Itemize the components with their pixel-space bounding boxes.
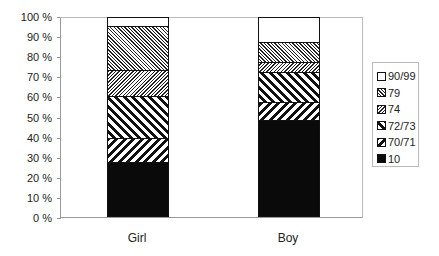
y-tick-label: 40 % — [0, 132, 52, 144]
y-tick-label: 30 % — [0, 152, 52, 164]
bar-segment-72-73 — [258, 73, 320, 103]
y-tick-label: 60 % — [0, 91, 52, 103]
y-tick-label: 70 % — [0, 71, 52, 83]
legend-swatch-icon — [377, 72, 386, 81]
bar-segment-74 — [258, 63, 320, 73]
legend-item: 79 — [377, 85, 418, 102]
x-tick-label: Boy — [257, 231, 319, 245]
legend-swatch-icon — [377, 88, 386, 97]
y-tick-label: 0 % — [0, 212, 52, 224]
legend-label: 72/73 — [388, 120, 416, 132]
bar-segment-10 — [258, 121, 320, 217]
y-tick-label: 100 % — [0, 11, 52, 23]
legend: 90/99797472/7370/7110 — [372, 62, 419, 167]
legend-item: 70/71 — [377, 134, 418, 151]
legend-item: 74 — [377, 101, 418, 118]
legend-swatch-icon — [377, 105, 386, 114]
y-tick-label: 90 % — [0, 31, 52, 43]
bar-girl — [107, 17, 169, 217]
bar-segment-90-99 — [107, 17, 169, 27]
y-tick-label: 20 % — [0, 172, 52, 184]
legend-swatch-icon — [377, 138, 386, 147]
bar-boy — [258, 17, 320, 217]
x-tick-label: Girl — [106, 231, 168, 245]
legend-swatch-icon — [377, 121, 386, 130]
legend-swatch-icon — [377, 154, 386, 163]
legend-label: 74 — [388, 103, 400, 115]
y-tick-label: 10 % — [0, 192, 52, 204]
bar-segment-10 — [107, 163, 169, 217]
bar-segment-70-71 — [258, 103, 320, 121]
y-tick-mark — [57, 218, 61, 219]
legend-item: 72/73 — [377, 118, 418, 135]
legend-label: 90/99 — [388, 70, 416, 82]
y-tick-label: 50 % — [0, 112, 52, 124]
y-tick-label: 80 % — [0, 51, 52, 63]
bar-segment-90-99 — [258, 17, 320, 43]
legend-label: 79 — [388, 87, 400, 99]
bar-segment-79 — [258, 43, 320, 63]
bar-segment-74 — [107, 71, 169, 97]
legend-item: 10 — [377, 151, 418, 168]
bar-segment-79 — [107, 27, 169, 71]
plot-area — [60, 17, 363, 218]
bar-segment-72-73 — [107, 97, 169, 139]
legend-label: 10 — [388, 153, 400, 165]
bar-segment-70-71 — [107, 139, 169, 163]
legend-item: 90/99 — [377, 68, 418, 85]
legend-label: 70/71 — [388, 136, 416, 148]
